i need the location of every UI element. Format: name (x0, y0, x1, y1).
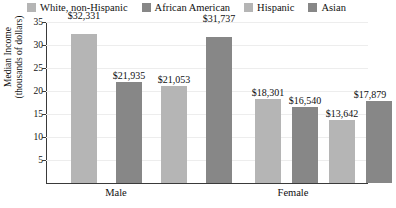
x-group-label-male: Male (76, 187, 156, 199)
legend-label: African American (155, 2, 231, 13)
bar-value-label: $32,331 (52, 10, 116, 21)
bar-male-white-non-hispanic (71, 34, 97, 183)
tick-mark-10 (42, 137, 46, 138)
legend-item-asian: Asian (308, 2, 346, 13)
y-tick-30: 30 (28, 40, 43, 50)
y-axis-title: Median Income (thousands of dollars) (3, 0, 25, 127)
bar-value-label: $16,540 (273, 95, 337, 106)
tick-mark-5 (42, 160, 46, 161)
legend-label: Hispanic (257, 2, 294, 13)
y-tick-35: 35 (28, 17, 43, 27)
x-axis-line (46, 183, 368, 184)
tick-mark-20 (42, 91, 46, 92)
bar-male-asian (206, 37, 232, 183)
bar-value-label: $17,879 (338, 89, 396, 100)
y-tick-25: 25 (28, 63, 43, 73)
tick-mark-30 (42, 45, 46, 46)
bar-value-label: $31,737 (187, 13, 251, 24)
x-group-label-female: Female (253, 187, 333, 199)
bar-female-asian (366, 101, 392, 183)
tick-mark-35 (42, 22, 46, 23)
bar-male-hispanic (161, 86, 187, 183)
y-tick-10: 10 (28, 132, 43, 142)
y-tick-20: 20 (28, 86, 43, 96)
bar-female-white-non-hispanic (255, 99, 281, 183)
y-axis-title-line1: Median Income (3, 27, 13, 87)
y-axis-title-line2: (thousands of dollars) (14, 0, 25, 127)
legend-swatch-icon (142, 3, 151, 12)
bar-female-hispanic (329, 120, 355, 183)
tick-mark-25 (42, 68, 46, 69)
legend-swatch-icon (308, 3, 317, 12)
legend-swatch-icon (244, 3, 253, 12)
y-tick-15: 15 (28, 109, 43, 119)
plot-area: $32,331 $21,935 $21,053 $31,737 $18,301 … (46, 22, 368, 183)
bar-value-label: $21,053 (142, 74, 206, 85)
legend-item-hispanic: Hispanic (244, 2, 294, 13)
tick-mark-15 (42, 114, 46, 115)
legend-item-african-american: African American (142, 2, 231, 13)
legend-label: Asian (321, 2, 346, 13)
bar-value-label: $13,642 (310, 108, 374, 119)
y-tick-5: 5 (28, 155, 43, 165)
legend-swatch-icon (27, 3, 36, 12)
bar-male-african-american (116, 82, 142, 183)
